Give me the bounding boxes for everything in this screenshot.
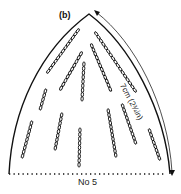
chain-stitch-link	[58, 52, 63, 57]
chain-stitch-link	[79, 51, 83, 56]
chain-stitch-lines	[21, 28, 161, 167]
chain-stitch-link	[66, 42, 71, 47]
chain-stitch-link	[53, 59, 58, 64]
chain-stitch-link	[61, 48, 66, 53]
chain-stitch-link	[133, 139, 137, 144]
chain-stitch-link	[157, 155, 161, 160]
chain-stitch-link	[108, 86, 112, 91]
chain-stitch-link	[71, 35, 76, 40]
dimension-arrow-top-icon	[94, 10, 100, 16]
dimension-line	[96, 12, 172, 172]
chain-stitch-link	[133, 88, 138, 93]
chain-stitch-link	[51, 62, 56, 67]
chain-stitch-link	[73, 32, 78, 37]
embroidery-shape-diagram	[0, 0, 181, 194]
chain-stitch-link	[63, 45, 68, 50]
chain-stitch-link	[46, 69, 51, 74]
chain-stitch-link	[56, 55, 61, 60]
chain-stitch-link	[75, 28, 80, 33]
baseline-label: No 5	[78, 177, 97, 187]
chain-stitch-link	[68, 38, 73, 43]
chain-stitch-link	[30, 121, 34, 126]
panel-label: (b)	[59, 10, 71, 20]
chain-stitch-link	[48, 65, 53, 70]
shape-outline	[9, 14, 170, 174]
chain-stitch-link	[44, 89, 48, 94]
